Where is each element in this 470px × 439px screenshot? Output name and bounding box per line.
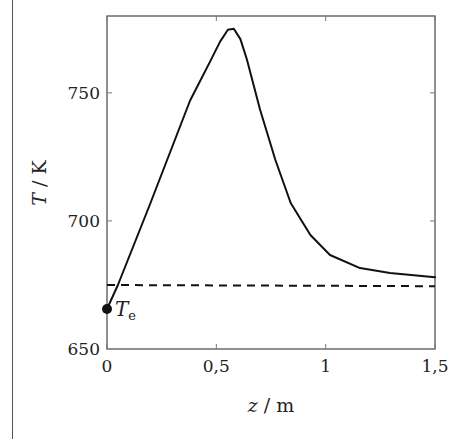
inlet-temperature-point xyxy=(102,304,112,314)
reference-dashed-line xyxy=(107,285,435,286)
y-axis-label: T / K xyxy=(28,160,50,206)
axis-ticks: 00,511,5650700750 xyxy=(68,16,449,376)
data-series xyxy=(107,29,435,309)
temperature-curve xyxy=(107,29,435,309)
x-axis-label: z / m xyxy=(247,394,295,416)
inlet-temperature-label: Te xyxy=(115,297,136,323)
plot-frame xyxy=(107,16,435,349)
x-tick-label: 0 xyxy=(102,356,113,376)
y-tick-label: 700 xyxy=(68,211,100,231)
x-tick-label: 0,5 xyxy=(203,356,230,376)
y-tick-label: 650 xyxy=(68,339,100,359)
x-tick-label: 1 xyxy=(320,356,331,376)
x-tick-label: 1,5 xyxy=(421,356,448,376)
temperature-profile-chart: 00,511,5650700750 Te z / m T / K xyxy=(0,0,470,439)
plot-axes xyxy=(107,16,435,349)
y-tick-label: 750 xyxy=(68,83,100,103)
